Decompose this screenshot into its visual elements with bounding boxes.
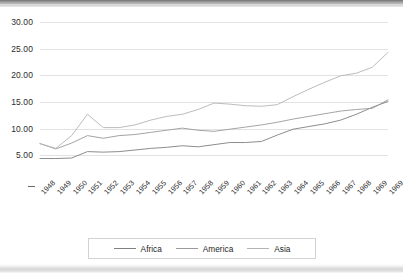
scan-bottom-text-artifact — [0, 264, 403, 273]
chart-legend: Africa America Asia — [88, 238, 316, 259]
y-axis-tick-label: 5.00 — [0, 150, 40, 160]
legend-line-icon-asia — [247, 248, 269, 249]
y-axis-tick-label: 30.00 — [0, 17, 40, 27]
legend-item-africa: Africa — [114, 244, 162, 254]
x-axis-tick-label: 1969 — [387, 178, 405, 196]
legend-label-africa: Africa — [141, 244, 162, 254]
plot-area — [40, 22, 388, 182]
series-line-asia — [40, 52, 388, 148]
y-axis-tick-label: 25.00 — [0, 44, 40, 54]
legend-label-america: America — [203, 244, 233, 254]
legend-label-asia: Asia — [274, 244, 290, 254]
series-line-africa — [40, 101, 388, 158]
series-lines-group — [40, 22, 388, 182]
y-axis-tick-label: 20.00 — [0, 70, 40, 80]
scan-top-band-secondary — [0, 5, 403, 7]
legend-item-asia: Asia — [247, 244, 290, 254]
legend-line-icon-africa — [114, 248, 136, 249]
legend-line-icon-america — [176, 248, 198, 249]
x-axis-origin-tick — [28, 186, 35, 187]
line-chart: 5.0010.0015.0020.0025.0030.00 1948194919… — [0, 8, 403, 240]
y-axis-tick-label: 15.00 — [0, 97, 40, 107]
series-line-america — [40, 100, 388, 149]
legend-item-america: America — [176, 244, 233, 254]
y-axis-tick-label: 10.00 — [0, 124, 40, 134]
x-axis-tick-labels: 1948194919501951195219531954195519561957… — [40, 190, 388, 236]
